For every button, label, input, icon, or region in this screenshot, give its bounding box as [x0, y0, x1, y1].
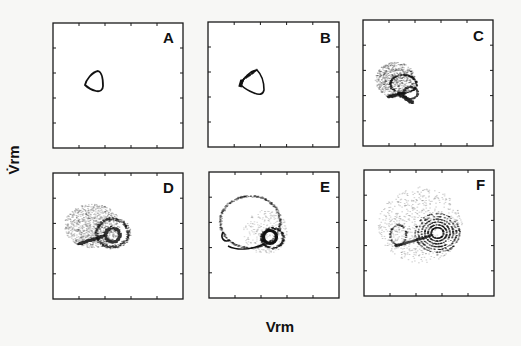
- panel-d: D: [53, 173, 183, 299]
- panel-a-label: A: [163, 29, 174, 46]
- y-axis-label: V̇rm: [5, 145, 22, 174]
- panel-b-label: B: [320, 29, 331, 46]
- panel-f-label: F: [476, 176, 485, 193]
- panel-c: C: [363, 20, 493, 146]
- panel-c-label: C: [473, 27, 484, 44]
- panel-e: E: [209, 172, 339, 298]
- panel-b: B: [208, 22, 339, 147]
- panel-a: A: [53, 23, 183, 148]
- panel-f: F: [364, 170, 494, 296]
- x-axis-label: Vrm: [266, 318, 294, 335]
- panel-e-label: E: [320, 178, 330, 195]
- phase-portrait-figure: A B C D E F V̇rm Vrm: [0, 0, 521, 346]
- panel-d-label: D: [163, 179, 174, 196]
